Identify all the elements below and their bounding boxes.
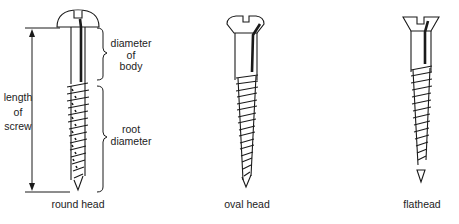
length-label-line-3: screw [3,121,33,133]
diameter-of-body-label: diameter of body [108,38,154,73]
round-head-threads [67,83,89,190]
length-of-screw-label: length of screw [3,92,33,133]
round-head-caption: round head [45,199,111,211]
body-diameter-line-3: body [108,61,154,73]
root-diameter-line-1: root [108,124,154,136]
oval-head-caption: oval head [217,199,277,211]
oval-head-threads [236,75,258,187]
flathead-screw [403,17,439,182]
root-diameter-label: root diameter [108,124,154,147]
length-label-line-2: of [3,107,33,119]
round-head-screw [57,10,99,190]
body-diameter-line-1: diameter [108,38,154,50]
flathead-caption: flathead [395,199,449,211]
length-label-line-1: length [3,92,33,104]
root-diameter-brace [97,86,107,192]
root-diameter-line-2: diameter [108,136,154,148]
oval-head-screw [227,16,264,187]
screw-diagram [0,0,459,224]
flathead-threads [411,66,432,182]
body-diameter-brace [97,28,107,80]
